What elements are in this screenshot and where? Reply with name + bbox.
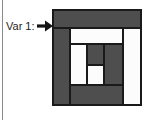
right-arrow-icon — [37, 20, 53, 32]
variation-label: Var 1: — [6, 20, 35, 32]
screen: Var 1: — [0, 0, 149, 120]
center-bottom-square — [88, 66, 103, 84]
outer-top-strip — [54, 11, 140, 27]
outer-left-strip — [54, 29, 69, 104]
outer-right-strip — [124, 29, 140, 104]
bottom-strip — [71, 86, 122, 104]
inner-right-strip — [105, 45, 122, 84]
center-top-square — [88, 45, 103, 64]
inner-top-strip — [71, 29, 122, 43]
panel-border-line — [2, 0, 3, 120]
quilt-block — [53, 10, 141, 105]
inner-left-strip — [71, 45, 86, 84]
